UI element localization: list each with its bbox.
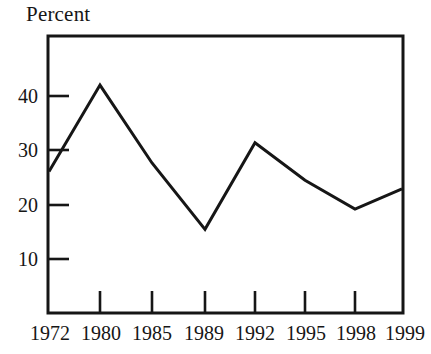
x-axis-label-1989: 1989 — [184, 322, 224, 344]
y-axis-ticks — [49, 96, 69, 259]
plot-frame — [48, 36, 403, 313]
y-axis-label-20: 20 — [0, 195, 38, 215]
x-axis-label-1980: 1980 — [81, 322, 121, 344]
x-axis-label-1998: 1998 — [336, 322, 376, 344]
data-series-line — [49, 85, 402, 229]
y-axis-label-10: 10 — [0, 249, 38, 269]
x-axis-label-1972: 1972 — [30, 322, 70, 344]
y-axis-label-40: 40 — [0, 86, 38, 106]
plot-area — [0, 0, 431, 354]
y-axis-label-group: 40 30 20 10 — [0, 0, 48, 354]
x-axis-label-1985: 1985 — [132, 322, 172, 344]
x-axis-label-1999: 1999 — [385, 322, 425, 344]
y-axis-label-30: 30 — [0, 140, 38, 160]
x-axis-label-1995: 1995 — [286, 322, 326, 344]
x-axis-label-group: 1972 1980 1985 1989 1992 1995 1998 1999 — [0, 322, 431, 350]
x-axis-ticks — [100, 291, 355, 312]
x-axis-label-1992: 1992 — [235, 322, 275, 344]
line-chart: Percent 40 30 20 10 1972 1980 — [0, 0, 431, 354]
